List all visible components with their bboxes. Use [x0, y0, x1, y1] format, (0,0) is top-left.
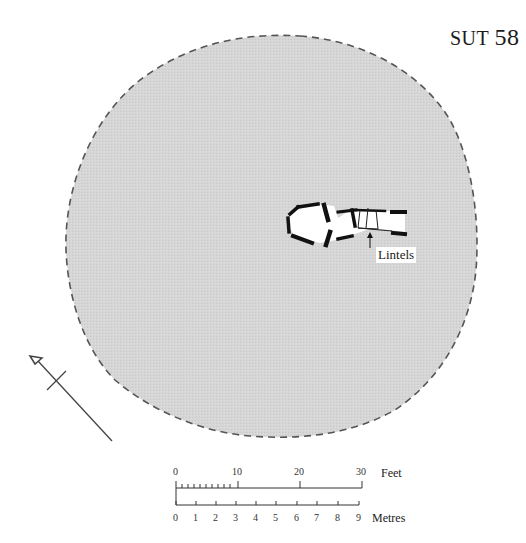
- metre-unit-label: Metres: [372, 511, 405, 526]
- north-arrow-icon: [30, 356, 112, 441]
- metre-tick-6: 6: [294, 512, 299, 523]
- feet-unit-label: Feet: [381, 466, 402, 481]
- feet-tick-20: 20: [294, 466, 304, 477]
- feet-tick-0: 0: [173, 466, 178, 477]
- metre-tick-4: 4: [253, 512, 258, 523]
- scale-bar: [176, 481, 362, 505]
- feet-tick-30: 30: [356, 466, 366, 477]
- metre-tick-9: 9: [356, 512, 361, 523]
- metre-tick-3: 3: [233, 512, 238, 523]
- feet-tick-10: 10: [232, 466, 242, 477]
- metre-tick-0: 0: [173, 512, 178, 523]
- site-plan: [0, 0, 526, 543]
- metre-tick-2: 2: [213, 512, 218, 523]
- cairn-outline: [66, 35, 477, 437]
- metre-tick-5: 5: [273, 512, 278, 523]
- metre-tick-7: 7: [314, 512, 319, 523]
- metre-tick-1: 1: [193, 512, 198, 523]
- lintels-label: Lintels: [376, 247, 416, 263]
- metre-tick-8: 8: [335, 512, 340, 523]
